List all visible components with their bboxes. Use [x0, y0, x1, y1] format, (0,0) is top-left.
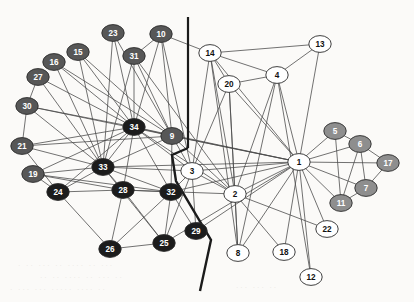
node-shape[interactable] — [324, 123, 346, 140]
graph-edge — [110, 190, 123, 249]
graph-node-26[interactable]: 26 — [99, 241, 121, 258]
node-shape[interactable] — [123, 48, 145, 65]
network-graph-canvas: 1234567891011121314151617181920212223242… — [0, 0, 414, 302]
graph-node-8[interactable]: 8 — [227, 245, 249, 262]
graph-edge — [335, 131, 341, 203]
graph-edge — [123, 127, 134, 190]
node-shape[interactable] — [273, 244, 295, 261]
node-shape[interactable] — [224, 186, 246, 203]
graph-node-4[interactable]: 4 — [266, 67, 288, 84]
node-shape[interactable] — [377, 155, 399, 172]
node-shape[interactable] — [22, 166, 44, 183]
graph-edge — [103, 136, 172, 167]
graph-node-20[interactable]: 20 — [218, 76, 240, 93]
graph-node-24[interactable]: 24 — [47, 184, 69, 201]
graph-node-11[interactable]: 11 — [330, 195, 352, 212]
node-shape[interactable] — [355, 180, 377, 197]
node-shape[interactable] — [316, 221, 338, 238]
graph-node-19[interactable]: 19 — [22, 166, 44, 183]
graph-edge — [192, 53, 210, 171]
graph-node-5[interactable]: 5 — [324, 123, 346, 140]
node-shape[interactable] — [227, 245, 249, 262]
node-shape[interactable] — [16, 98, 38, 115]
node-shape[interactable] — [300, 269, 322, 286]
node-shape[interactable] — [288, 154, 310, 171]
graph-edge — [103, 167, 192, 171]
graph-node-33[interactable]: 33 — [92, 159, 114, 176]
node-shape[interactable] — [99, 241, 121, 258]
graph-edge — [229, 84, 299, 162]
graph-edge — [161, 34, 172, 136]
graph-node-29[interactable]: 29 — [185, 223, 207, 240]
graph-node-22[interactable]: 22 — [316, 221, 338, 238]
graph-node-17[interactable]: 17 — [377, 155, 399, 172]
graph-node-23[interactable]: 23 — [102, 25, 124, 42]
graph-node-15[interactable]: 15 — [67, 44, 89, 61]
graph-edge — [299, 162, 327, 229]
graph-node-34[interactable]: 34 — [123, 119, 145, 136]
graph-edge — [33, 174, 123, 190]
node-shape[interactable] — [11, 138, 33, 155]
node-shape[interactable] — [161, 128, 183, 145]
graph-edge — [103, 33, 113, 167]
graph-node-21[interactable]: 21 — [11, 138, 33, 155]
node-shape[interactable] — [43, 54, 65, 71]
graph-node-14[interactable]: 14 — [199, 45, 221, 62]
nodes-layer: 1234567891011121314151617181920212223242… — [11, 25, 399, 286]
edges-layer — [22, 33, 388, 277]
graph-edge — [238, 162, 299, 253]
node-shape[interactable] — [153, 235, 175, 252]
node-shape[interactable] — [150, 26, 172, 43]
graph-edge — [299, 44, 320, 162]
graph-node-16[interactable]: 16 — [43, 54, 65, 71]
graph-node-10[interactable]: 10 — [150, 26, 172, 43]
node-shape[interactable] — [47, 184, 69, 201]
node-shape[interactable] — [27, 69, 49, 86]
node-shape[interactable] — [349, 136, 371, 153]
graph-edge — [299, 162, 311, 277]
graph-edge — [38, 77, 134, 127]
graph-edge — [210, 44, 320, 53]
graph-node-13[interactable]: 13 — [309, 36, 331, 53]
node-shape[interactable] — [160, 184, 182, 201]
graph-node-30[interactable]: 30 — [16, 98, 38, 115]
graph-edge — [22, 127, 134, 146]
graph-node-31[interactable]: 31 — [123, 48, 145, 65]
graph-node-12[interactable]: 12 — [300, 269, 322, 286]
node-shape[interactable] — [330, 195, 352, 212]
graph-node-28[interactable]: 28 — [112, 182, 134, 199]
network-graph-figure: · ·· ··· ·· ···· ·· ··· ·· ·· ···· ·· ··… — [0, 0, 414, 302]
node-shape[interactable] — [123, 119, 145, 136]
graph-node-7[interactable]: 7 — [355, 180, 377, 197]
graph-edge — [235, 194, 284, 252]
graph-node-27[interactable]: 27 — [27, 69, 49, 86]
node-shape[interactable] — [181, 163, 203, 180]
node-shape[interactable] — [266, 67, 288, 84]
graph-edge — [192, 171, 196, 231]
graph-edge — [103, 56, 134, 167]
graph-node-2[interactable]: 2 — [224, 186, 246, 203]
node-shape[interactable] — [102, 25, 124, 42]
node-shape[interactable] — [218, 76, 240, 93]
graph-node-18[interactable]: 18 — [273, 244, 295, 261]
graph-edge — [284, 162, 299, 252]
node-shape[interactable] — [92, 159, 114, 176]
graph-node-32[interactable]: 32 — [160, 184, 182, 201]
node-shape[interactable] — [309, 36, 331, 53]
graph-edge — [235, 194, 327, 229]
graph-node-3[interactable]: 3 — [181, 163, 203, 180]
graph-node-9[interactable]: 9 — [161, 128, 183, 145]
graph-edge — [341, 144, 360, 203]
graph-node-1[interactable]: 1 — [288, 154, 310, 171]
graph-node-25[interactable]: 25 — [153, 235, 175, 252]
graph-edge — [299, 162, 388, 163]
node-shape[interactable] — [185, 223, 207, 240]
graph-node-6[interactable]: 6 — [349, 136, 371, 153]
node-shape[interactable] — [112, 182, 134, 199]
graph-edge — [27, 106, 134, 127]
graph-edge — [58, 192, 110, 249]
node-shape[interactable] — [199, 45, 221, 62]
node-shape[interactable] — [67, 44, 89, 61]
